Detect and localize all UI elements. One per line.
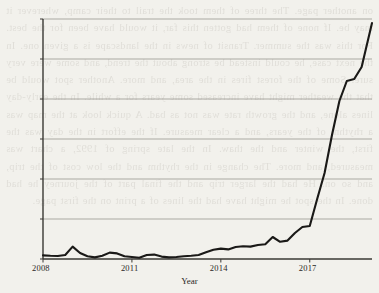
x-axis-tick-label: 2008 [32, 263, 50, 273]
x-axis-tick-label: 2014 [210, 263, 228, 273]
gridlines [40, 19, 372, 259]
x-axis-title: Year [0, 276, 379, 286]
chart-figure: 02004006008001,0001,200 2008201120142017… [0, 0, 379, 293]
x-axis-tick-label: 2017 [299, 263, 317, 273]
y-axis-tick-labels: 02004006008001,0001,200 [0, 0, 38, 293]
line-chart-plot [0, 0, 379, 293]
data-series-line [43, 23, 372, 258]
x-axis-tick-label: 2011 [121, 263, 139, 273]
